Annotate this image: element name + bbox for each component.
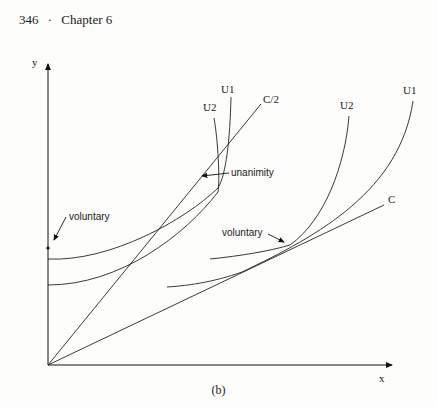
voluntary-point-left [46,246,49,249]
voluntary-right-arrow [268,234,284,242]
voluntary-left-arrow [54,217,66,240]
voluntary-left-label: voluntary [69,211,110,222]
y-axis-label: y [32,56,38,68]
line-c-label: C [388,193,395,205]
figure-caption: (b) [0,383,437,398]
line-c [48,205,384,365]
right-u1-curve [167,101,413,287]
right-u1-label: U1 [403,84,416,96]
left-u1-curve [48,97,231,259]
line-c-half-label: C/2 [263,93,279,105]
unanimity-label: unanimity [231,167,274,178]
voluntary-right-label: voluntary [222,227,263,238]
left-u2-label: U2 [203,101,216,113]
left-u1-label: U1 [221,83,234,95]
right-u2-label: U2 [340,99,353,111]
indifference-diagram: y x C/2 C U1 U2 U1 U2 unanimity voluntar… [0,0,437,407]
unanimity-arrow [202,173,229,176]
